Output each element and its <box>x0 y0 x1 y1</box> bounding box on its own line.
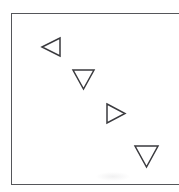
scan-artifact-smudge <box>96 172 130 181</box>
figure-canvas <box>0 0 179 192</box>
frame-box <box>11 13 179 185</box>
